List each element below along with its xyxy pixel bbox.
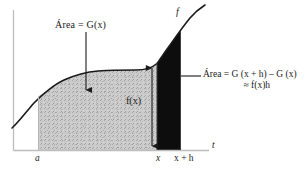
axis-label-t: t [212, 140, 215, 150]
tick-label-x-text: x [156, 153, 160, 163]
shaded-area-delta [157, 31, 180, 150]
label-area-gx: Área = G(x) [55, 19, 106, 30]
shaded-area-gx [38, 64, 157, 151]
label-fx-text: f(x) [126, 95, 141, 106]
label-curve-f: f [176, 6, 179, 17]
label-area-gx-text: Área = G(x) [55, 19, 106, 30]
label-area-delta-line1: Área = G (x + h) – G (x) [203, 69, 297, 80]
label-fx: f(x) [126, 95, 141, 106]
label-area-delta-line2: ≈ f(x)h [203, 80, 297, 91]
label-curve-f-text: f [176, 6, 179, 17]
axis-label-t-text: t [212, 140, 215, 150]
tick-label-xh: x + h [174, 153, 194, 163]
tick-label-x: x [156, 153, 160, 163]
tick-label-a: a [35, 153, 40, 163]
label-area-delta: Área = G (x + h) – G (x) ≈ f(x)h [203, 69, 297, 91]
tick-label-xh-text: x + h [174, 153, 194, 163]
area-function-figure: Área = G(x) Área = G (x + h) – G (x) ≈ f… [0, 0, 307, 173]
tick-label-a-text: a [35, 153, 40, 163]
